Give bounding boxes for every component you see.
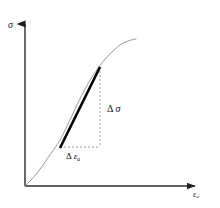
tangent-modulus-line — [60, 67, 100, 148]
x-axis-label: εa — [193, 191, 199, 200]
epsilon-subscript: a — [196, 194, 198, 199]
epsilon-subscript-annotation: a — [77, 156, 80, 162]
delta-symbol-epsilon: Δ — [66, 151, 72, 161]
stress-strain-figure: σ εa Δσ Δεa — [0, 0, 220, 208]
y-axis-label: σ — [8, 20, 13, 30]
delta-sigma-label: Δσ — [107, 104, 120, 114]
delta-epsilon-label: Δεa — [66, 152, 80, 162]
sigma-symbol: σ — [8, 19, 13, 30]
sigma-symbol-annotation: σ — [115, 103, 120, 114]
delta-symbol-sigma: Δ — [107, 103, 113, 114]
